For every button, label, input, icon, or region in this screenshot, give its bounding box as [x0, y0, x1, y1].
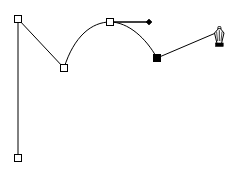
anchor-point-1[interactable]: Anchor point 1	[15, 16, 22, 23]
anchor-point-3[interactable]: Anchor point 3	[61, 65, 68, 72]
anchor-point-5[interactable]: Anchor point 5	[154, 55, 161, 62]
direction-handle-group[interactable]	[110, 19, 152, 25]
bezier-path[interactable]	[18, 19, 218, 158]
vector-path-artboard[interactable]: Anchor point 1Anchor point 2Anchor point…	[0, 0, 237, 171]
anchor-point-layer[interactable]: Anchor point 1Anchor point 2Anchor point…	[15, 16, 161, 162]
direction-handle-endpoint-icon[interactable]	[146, 19, 152, 25]
pen-nib-tip	[218, 27, 222, 29]
pen-nib-icon	[215, 27, 225, 47]
anchor-point-4[interactable]: Anchor point 4	[107, 19, 114, 26]
pen-nib-base	[216, 43, 224, 46]
drawing-canvas[interactable]: Pen tool path construction Anchor point …	[0, 0, 237, 171]
anchor-point-2[interactable]: Anchor point 2	[15, 155, 22, 162]
